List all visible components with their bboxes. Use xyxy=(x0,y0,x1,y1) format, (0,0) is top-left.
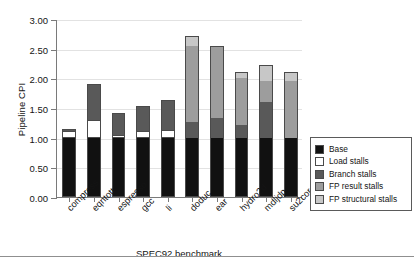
chart-figure: Pipeline CPI 0.000.501.001.502.002.503.0… xyxy=(0,0,414,273)
x-tick-label-ear: ear xyxy=(213,196,230,213)
bar-segment-base xyxy=(62,138,76,197)
bottom-divider xyxy=(0,256,414,257)
bar-segment-fpres xyxy=(185,46,199,122)
bar-segment-fpstr xyxy=(185,36,199,46)
bar-doduc xyxy=(185,36,199,197)
legend-label: Branch stalls xyxy=(329,169,377,180)
legend-item-fpres: FP result stalls xyxy=(315,181,406,192)
x-axis-tick-labels: compresseqntottespressogcclidoducearhydr… xyxy=(56,200,302,248)
legend-label: FP result stalls xyxy=(329,181,383,192)
legend-label: FP structural stalls xyxy=(329,194,397,205)
bar-group xyxy=(57,20,302,197)
bar-segment-load xyxy=(62,131,76,138)
bar-segment-load xyxy=(87,120,101,137)
bar-compress xyxy=(62,129,76,197)
bar-segment-branch xyxy=(259,102,273,138)
y-tick-label: 2.00 xyxy=(30,74,49,85)
bar-segment-fpres xyxy=(284,81,298,137)
bar-segment-base xyxy=(210,138,224,197)
legend-swatch-base xyxy=(315,145,324,154)
legend-swatch-branch xyxy=(315,170,324,179)
legend-item-fpstr: FP structural stalls xyxy=(315,194,406,205)
bar-segment-fpstr xyxy=(259,65,273,80)
bar-segment-branch xyxy=(161,100,175,130)
bar-li xyxy=(161,100,175,197)
bar-segment-branch xyxy=(210,118,224,138)
bar-segment-branch xyxy=(185,122,199,138)
legend-swatch-fpstr xyxy=(315,195,324,204)
bar-su2cor xyxy=(284,72,298,197)
bar-segment-fpres xyxy=(210,46,224,118)
legend-label: Base xyxy=(329,144,348,155)
bar-ear xyxy=(210,46,224,197)
x-tick-label-gcc: gcc xyxy=(139,196,156,213)
bar-espresso xyxy=(112,113,126,197)
y-axis-title: Pipeline CPI xyxy=(16,45,27,175)
bar-segment-base xyxy=(185,138,199,197)
bar-segment-base xyxy=(112,138,126,197)
bar-segment-fpres xyxy=(259,81,273,102)
bar-segment-branch xyxy=(87,84,101,121)
y-tick-label: 3.00 xyxy=(30,15,49,26)
x-axis-title: SPEC92 benchmark xyxy=(56,248,302,259)
legend-label: Load stalls xyxy=(329,156,369,167)
plot-area: 0.000.501.001.502.002.503.00 xyxy=(56,20,302,198)
bar-segment-fpstr xyxy=(284,72,298,81)
legend: BaseLoad stallsBranch stallsFP result st… xyxy=(310,137,412,211)
y-tick-label: 1.50 xyxy=(30,104,49,115)
legend-item-load: Load stalls xyxy=(315,156,406,167)
y-tick-label: 0.50 xyxy=(30,163,49,174)
bar-segment-branch xyxy=(112,113,126,136)
bar-segment-base xyxy=(284,138,298,197)
y-tick xyxy=(51,198,57,199)
bar-segment-base xyxy=(235,138,249,197)
x-tick-label-li: li xyxy=(164,203,174,213)
bar-mdljdp xyxy=(259,65,273,197)
legend-swatch-fpres xyxy=(315,182,324,191)
bar-segment-branch xyxy=(136,106,150,131)
bar-segment-load xyxy=(161,130,175,138)
legend-item-base: Base xyxy=(315,144,406,155)
y-tick-label: 2.50 xyxy=(30,44,49,55)
legend-swatch-load xyxy=(315,157,324,166)
bar-segment-fpres xyxy=(235,78,249,124)
bar-segment-base xyxy=(161,138,175,197)
legend-item-branch: Branch stalls xyxy=(315,169,406,180)
y-tick-label: 0.00 xyxy=(30,193,49,204)
bar-segment-branch xyxy=(235,125,249,138)
y-tick-label: 1.00 xyxy=(30,133,49,144)
bar-hydro2d xyxy=(235,72,249,197)
